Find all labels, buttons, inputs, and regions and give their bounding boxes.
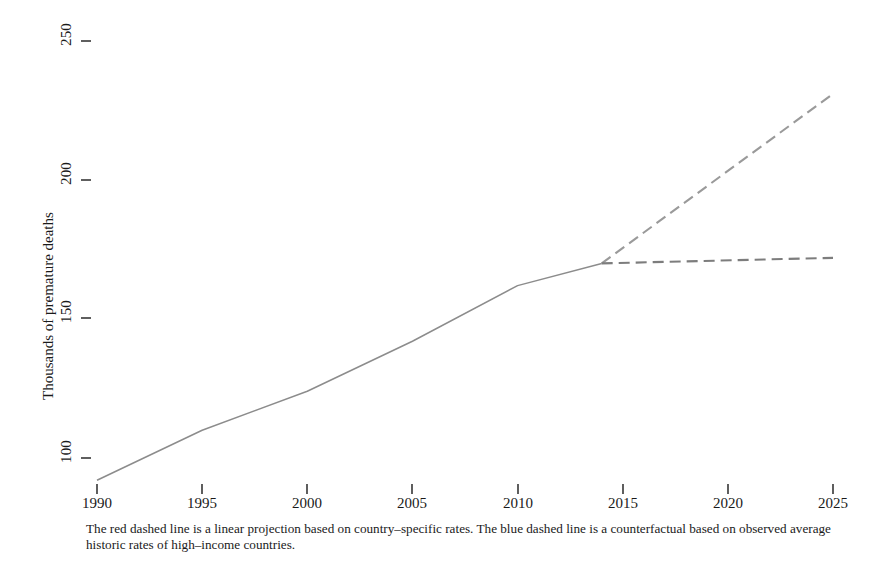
x-tick-label-1990: 1990	[67, 495, 127, 512]
y-axis-ticks	[81, 41, 91, 458]
x-tick-label-2025: 2025	[803, 495, 863, 512]
x-tick-label-2015: 2015	[593, 495, 653, 512]
x-tick-label-1995: 1995	[172, 495, 232, 512]
y-tick-label-200: 200	[58, 154, 75, 194]
x-axis-ticks	[97, 484, 833, 494]
x-tick-label-2020: 2020	[698, 495, 758, 512]
y-axis-title: Thousands of premature deaths	[40, 212, 57, 400]
figure-caption: The red dashed line is a linear projecti…	[86, 521, 872, 553]
series-line-2	[602, 258, 833, 264]
series-line-1	[602, 94, 833, 264]
y-tick-label-150: 150	[58, 292, 75, 332]
x-tick-label-2005: 2005	[382, 495, 442, 512]
y-tick-label-250: 250	[58, 15, 75, 55]
chart-plot-area	[0, 0, 880, 573]
x-tick-label-2000: 2000	[277, 495, 337, 512]
chart-figure: 250 200 150 100 Thousands of premature d…	[0, 0, 880, 573]
x-tick-label-2010: 2010	[488, 495, 548, 512]
y-tick-label-100: 100	[58, 432, 75, 472]
data-series-layer	[97, 94, 833, 480]
series-line-0	[97, 263, 602, 480]
